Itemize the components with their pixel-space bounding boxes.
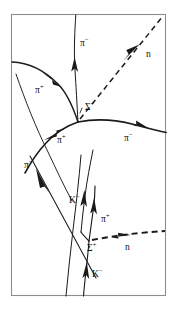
label-pi-minus-lower-left: π− — [24, 158, 33, 170]
label-k-minus-mid: K− — [69, 193, 80, 205]
k-minus-incoming-path — [66, 155, 81, 296]
pi-plus-mid-path — [25, 122, 78, 173]
bubble-chamber-diagram: π− n π+ Σ− π+ π− π− K− — [0, 0, 178, 310]
pi-plus-upper-left-arrowhead — [41, 72, 62, 88]
sigma-plus-short-path — [81, 232, 89, 241]
track-pi-plus-from-sigma — [89, 186, 97, 241]
track-pi-minus-lower-left — [30, 156, 96, 278]
sigma-minus-vertex-ticks — [80, 108, 82, 113]
label-sigma-minus: Σ− — [85, 100, 95, 112]
track-neutron-lower — [92, 231, 165, 240]
chamber-frame — [12, 15, 166, 296]
track-k-minus-diagonal — [81, 150, 93, 232]
label-pi-minus-top: π− — [80, 36, 89, 48]
pi-plus-from-sigma-path — [89, 186, 95, 241]
track-k-minus-incoming — [66, 155, 81, 296]
label-neutron-lower: n — [125, 242, 130, 252]
label-sigma-plus: Σ+ — [87, 241, 97, 253]
label-k-minus-bottom: K− — [92, 267, 103, 279]
label-pi-plus-lower: π+ — [101, 212, 110, 224]
pi-minus-right-path — [78, 120, 166, 133]
neutron-top-arrowhead — [124, 45, 140, 61]
k-minus-diagonal-path — [81, 150, 93, 232]
sigma-minus-tick-a — [80, 108, 82, 113]
particle-track-canvas: π− n π+ Σ− π+ π− π− K− — [0, 0, 178, 310]
label-pi-minus-right: π− — [124, 131, 133, 143]
track-pi-plus-upper-left — [12, 62, 78, 122]
label-pi-plus-upper-left: π+ — [35, 83, 44, 95]
neutron-lower-path — [92, 231, 165, 240]
track-pi-plus-mid — [25, 122, 78, 173]
label-pi-plus-mid: π+ — [57, 133, 66, 145]
pi-plus-upper-left-path — [12, 62, 78, 122]
pi-minus-lower-left-path — [30, 156, 96, 278]
pi-plus-from-sigma-arrowhead — [90, 198, 97, 215]
track-sigma-plus-short — [81, 232, 89, 241]
label-neutron-top: n — [146, 49, 151, 59]
pi-minus-lower-left-arrowhead — [36, 169, 50, 194]
track-pi-minus-right — [78, 120, 166, 133]
